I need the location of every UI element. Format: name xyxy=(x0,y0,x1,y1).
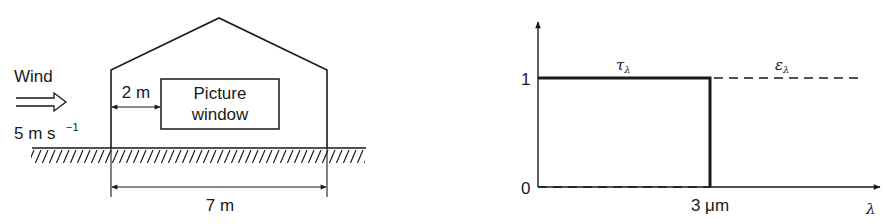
distance-label: 2 m xyxy=(122,83,150,102)
window-label-line2: window xyxy=(191,105,249,124)
width-label: 7 m xyxy=(206,196,234,215)
y-tick-0: 0 xyxy=(521,179,530,198)
wind-arrow-icon xyxy=(16,93,66,111)
ground-hatching xyxy=(31,149,365,163)
wind-speed-exponent: −1 xyxy=(66,121,79,133)
series-line-epsilon xyxy=(538,78,862,187)
series-line-tau xyxy=(538,78,710,187)
epsilon-label: ελ xyxy=(775,56,789,75)
x-axis-symbol: λ xyxy=(865,200,876,218)
wind-label: Wind xyxy=(14,67,53,86)
house-diagram: Wind 5 m s −1 Picture window 2 m 7 m xyxy=(14,18,366,215)
window-label-line1: Picture xyxy=(194,84,247,103)
series-layer xyxy=(538,78,862,187)
figure: Wind 5 m s −1 Picture window 2 m 7 m 1 0 xyxy=(0,0,886,224)
wind-speed-label: 5 m s xyxy=(14,124,56,143)
spectral-plot: 1 0 3 μm λ τλ ελ xyxy=(521,22,880,218)
x-tick-3um: 3 μm xyxy=(691,196,729,215)
tau-label: τλ xyxy=(616,56,631,75)
y-tick-1: 1 xyxy=(521,70,530,89)
